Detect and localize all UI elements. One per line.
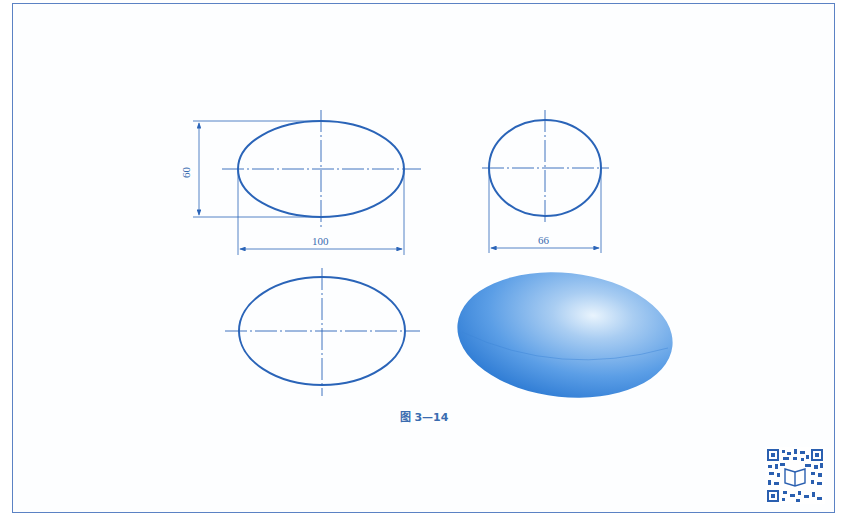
height-dimension-label: 60 [180,167,192,178]
side-width-dimension-label: 66 [538,234,549,246]
qr-code-icon[interactable] [765,447,825,504]
side-view [482,110,609,253]
3d-view [451,262,679,408]
technical-drawing [0,0,848,523]
width-dimension-label: 100 [312,235,329,247]
figure-caption: 图 3—14 [0,408,848,424]
front-view [193,110,421,255]
top-view [225,268,420,396]
